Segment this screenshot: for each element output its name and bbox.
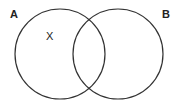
set-a-circle — [15, 9, 105, 99]
venn-diagram: A B X — [0, 0, 179, 105]
set-b-label: B — [162, 8, 170, 20]
set-b-circle — [73, 9, 163, 99]
x-marker: X — [46, 30, 54, 42]
set-a-label: A — [10, 8, 18, 20]
